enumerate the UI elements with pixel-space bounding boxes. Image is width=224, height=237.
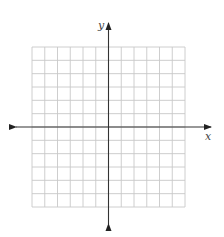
coordinate-plane: y x: [0, 0, 224, 237]
x-axis-label: x: [205, 130, 212, 143]
y-axis-label: y: [97, 19, 105, 32]
